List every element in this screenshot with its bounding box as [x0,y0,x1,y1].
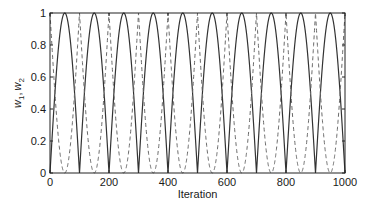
plot-area [50,13,345,173]
y-axis-label: w1,w2 [11,78,26,108]
y-tick-label: 0.4 [31,103,46,115]
svg-text:w1,w2: w1,w2 [11,78,26,108]
y-tick-label: 0 [40,167,46,179]
y-tick-label: 0.8 [31,39,46,51]
x-tick-label: 400 [159,176,177,188]
x-tick-label: 600 [218,176,236,188]
x-tick-label: 0 [47,176,53,188]
y-label-sep: , [11,92,23,95]
x-axis-label: Iteration [178,188,218,200]
y-tick-label: 0.2 [31,135,46,147]
plot-frame [50,13,345,173]
x-tick-label: 1000 [333,176,357,188]
y-tick-label: 0.6 [31,71,46,83]
y-tick-label: 1 [40,7,46,19]
x-tick-label: 200 [100,176,118,188]
y-label-sub2: 2 [17,78,26,83]
line-chart: 02004006008001000 00.20.40.60.81 Iterati… [0,0,373,206]
x-tick-label: 800 [277,176,295,188]
